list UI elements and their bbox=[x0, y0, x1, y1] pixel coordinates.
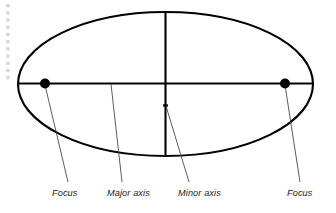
ellipse-diagram-figure: Focus Major axis Minor axis Focus bbox=[0, 0, 336, 213]
leader-line-focus-left bbox=[45, 85, 68, 182]
label-major-axis: Major axis bbox=[107, 188, 150, 198]
page-perforation-marks bbox=[6, 4, 9, 79]
leader-line-minor-axis bbox=[166, 106, 189, 182]
focus-point-right bbox=[280, 79, 290, 89]
leader-line-focus-right bbox=[285, 85, 300, 182]
focus-point-left bbox=[40, 79, 50, 89]
label-focus-left: Focus bbox=[52, 188, 78, 198]
leader-line-major-axis bbox=[111, 84, 122, 182]
label-minor-axis: Minor axis bbox=[178, 188, 221, 198]
ellipse-diagram-canvas: Focus Major axis Minor axis Focus bbox=[0, 0, 336, 213]
label-focus-right: Focus bbox=[287, 188, 313, 198]
